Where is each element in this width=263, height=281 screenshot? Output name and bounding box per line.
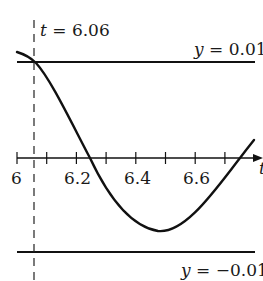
- tick-label-6.2: 6.2: [64, 168, 91, 188]
- vline-label: t = 6.06: [40, 20, 110, 40]
- tick-label-6.6: 6.6: [183, 168, 210, 188]
- tick-label-6.4: 6.4: [124, 168, 151, 188]
- tick-label-6: 6: [11, 168, 22, 188]
- upper-bound-label: y = 0.01: [193, 39, 263, 59]
- lower-bound-label: y = −0.01: [180, 260, 263, 280]
- solution-curve: [17, 52, 254, 231]
- tick-labels: 6 6.2 6.4 6.6: [11, 168, 210, 188]
- t-axis: [17, 152, 263, 164]
- axis-variable-label: t: [259, 158, 263, 178]
- chart-canvas: t = 6.06 y = 0.01 y = −0.01 6 6.2 6.4 6.…: [0, 0, 263, 281]
